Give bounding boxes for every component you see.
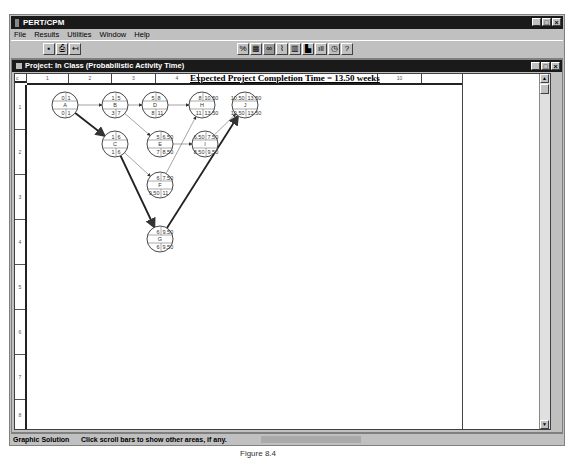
- late-finish: 7: [118, 110, 121, 116]
- activity-label: H: [200, 102, 204, 108]
- early-finish: 6: [118, 134, 121, 140]
- row-7: 7: [15, 355, 25, 400]
- grid-icon[interactable]: ▦: [250, 43, 262, 55]
- network-nodes: 01A0115B3758D811810.50H1113.5010.5013.50…: [52, 92, 261, 252]
- app-icon: [15, 19, 19, 27]
- early-finish: 8: [158, 95, 161, 101]
- activity-node-C[interactable]: 16C16: [102, 131, 128, 157]
- menu-results[interactable]: Results: [34, 30, 59, 39]
- activity-node-J[interactable]: 10.5013.50J10.5013.50: [231, 92, 262, 118]
- percent-icon[interactable]: %: [237, 43, 249, 55]
- early-start: 5: [156, 134, 159, 140]
- vertical-scrollbar[interactable]: ▲ ▼: [539, 74, 550, 429]
- project-window-title: Project: In Class (Probabilistic Activit…: [25, 61, 184, 70]
- activity-node-E[interactable]: 56.50E78.50: [147, 131, 173, 157]
- activity-node-I[interactable]: 6.507.50I8.509.50: [192, 131, 218, 157]
- activity-node-B[interactable]: 15B37: [102, 92, 128, 118]
- row-4: 4: [15, 220, 25, 265]
- toolbar: ▪ ⎙ ↤ % ▦ ∞ ⌇ ▥ ▙ ıll ◷ ?: [11, 40, 563, 59]
- early-finish: 7.50: [208, 134, 219, 140]
- early-start: 10.50: [231, 95, 245, 101]
- late-start: 7: [156, 149, 159, 155]
- late-start: 8: [151, 110, 154, 116]
- activity-label: E: [158, 141, 162, 147]
- minimize-button[interactable]: _: [532, 18, 541, 26]
- gantt-icon[interactable]: ▥: [289, 43, 301, 55]
- col-3: 3: [112, 74, 156, 83]
- activity-label: A: [63, 102, 67, 108]
- scroll-thumb[interactable]: [540, 84, 549, 94]
- print-icon[interactable]: ⎙: [56, 43, 68, 55]
- menu-window[interactable]: Window: [100, 30, 127, 39]
- early-start: 0: [61, 95, 64, 101]
- exit-icon[interactable]: ↤: [69, 43, 81, 55]
- early-finish: 7.50: [163, 175, 174, 181]
- late-finish: 8.50: [163, 149, 174, 155]
- row-8: 8: [15, 400, 25, 430]
- child-minimize-button[interactable]: _: [531, 62, 540, 70]
- network-edges: [75, 105, 238, 228]
- menu-bar: File Results Utilities Window Help: [11, 29, 563, 40]
- early-start: 6: [156, 175, 159, 181]
- document-icon: [16, 63, 22, 69]
- figure-caption: Figure 8.4: [240, 449, 276, 458]
- activity-node-A[interactable]: 01A01: [52, 92, 78, 118]
- activity-label: J: [244, 102, 247, 108]
- late-finish: 11: [163, 190, 169, 196]
- menu-utilities[interactable]: Utilities: [67, 30, 91, 39]
- early-start: 1: [111, 134, 114, 140]
- status-mode: Graphic Solution: [13, 434, 69, 445]
- early-finish: 5: [118, 95, 121, 101]
- close-button[interactable]: ×: [552, 18, 561, 26]
- late-finish: 6: [118, 149, 121, 155]
- network-icon[interactable]: ∞: [263, 43, 275, 55]
- early-start: 1: [111, 95, 114, 101]
- late-start: 9.50: [149, 190, 160, 196]
- pert-network-diagram: 01A0115B3758D811810.50H1113.5010.5013.50…: [27, 85, 467, 430]
- status-progress: [261, 436, 361, 443]
- help-icon[interactable]: ?: [341, 43, 353, 55]
- scroll-down-button[interactable]: ▼: [540, 420, 549, 429]
- save-icon[interactable]: ▪: [43, 43, 55, 55]
- app-title: PERT/CPM: [23, 18, 64, 27]
- activity-node-H[interactable]: 810.50H1113.50: [189, 92, 218, 118]
- early-start: 8: [198, 95, 201, 101]
- col-10: 10: [377, 74, 422, 83]
- graph-icon[interactable]: ⌇: [276, 43, 288, 55]
- histogram-icon[interactable]: ıll: [315, 43, 327, 55]
- edge-A-C: [75, 113, 104, 136]
- child-close-button[interactable]: ×: [551, 62, 560, 70]
- pert-cpm-app-window: PERT/CPM _ □ × File Results Utilities Wi…: [9, 14, 565, 446]
- early-start: 5: [151, 95, 154, 101]
- early-finish: 13.50: [248, 95, 262, 101]
- early-finish: 9.50: [163, 229, 174, 235]
- late-finish: 11: [158, 110, 164, 116]
- activity-node-G[interactable]: 69.50G69.50: [147, 226, 173, 252]
- maximize-button[interactable]: □: [542, 18, 551, 26]
- col-1: 1: [27, 74, 69, 83]
- status-hint: Click scroll bars to show other areas, i…: [81, 434, 227, 445]
- early-start: 6: [156, 229, 159, 235]
- row-3: 3: [15, 175, 25, 220]
- late-start: 10.50: [231, 110, 245, 116]
- activity-node-D[interactable]: 58D811: [142, 92, 168, 118]
- network-canvas: c 1 2 3 4 10 Expected Project Completion…: [14, 73, 551, 430]
- bar-chart-icon[interactable]: ▙: [302, 43, 314, 55]
- row-2: 2: [15, 130, 25, 175]
- clock-icon[interactable]: ◷: [328, 43, 340, 55]
- activity-node-F[interactable]: 67.50F9.5011: [147, 172, 173, 198]
- project-window-titlebar: Project: In Class (Probabilistic Activit…: [12, 60, 562, 72]
- child-maximize-button[interactable]: □: [541, 62, 550, 70]
- late-start: 6: [156, 244, 159, 250]
- late-start: 0: [61, 110, 64, 116]
- project-window: Project: In Class (Probabilistic Activit…: [11, 59, 563, 433]
- menu-file[interactable]: File: [14, 30, 26, 39]
- late-finish: 1: [68, 110, 71, 116]
- early-finish: 10.50: [205, 95, 219, 101]
- menu-help[interactable]: Help: [134, 30, 149, 39]
- scroll-up-button[interactable]: ▲: [540, 74, 549, 83]
- early-finish: 1: [68, 95, 71, 101]
- activity-label: C: [113, 141, 117, 147]
- late-start: 11: [196, 110, 202, 116]
- app-titlebar: PERT/CPM _ □ ×: [11, 16, 563, 29]
